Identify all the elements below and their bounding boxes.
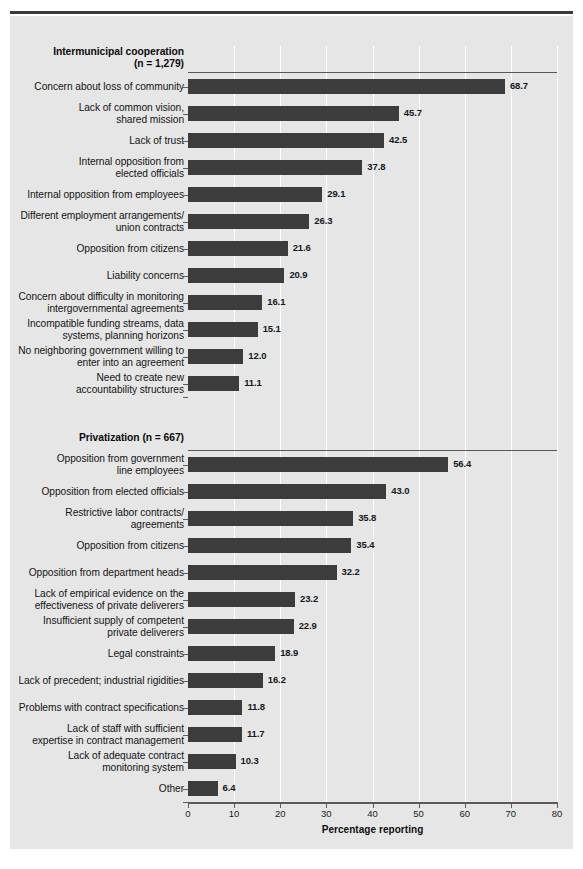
category-label-line: Concern about loss of community xyxy=(2,81,184,93)
bar-value-label: 22.9 xyxy=(299,618,317,633)
bar-value-label: 37.8 xyxy=(367,159,385,174)
category-label: Other xyxy=(2,783,184,795)
bar-value-label: 18.9 xyxy=(280,645,298,660)
bar-value-label: 6.4 xyxy=(223,780,236,795)
bar xyxy=(188,457,448,472)
category-label: Incompatible funding streams, datasystem… xyxy=(2,318,184,341)
category-label-line: No neighboring government willing to xyxy=(2,345,184,357)
group-header-line1: Privatization (n = 667) xyxy=(2,432,184,444)
category-label: Need to create newaccountability structu… xyxy=(2,372,184,395)
category-label-line: monitoring system xyxy=(2,762,184,774)
category-label-line: Lack of staff with sufficient xyxy=(2,723,184,735)
category-label-line: Insufficient supply of competent xyxy=(2,615,184,627)
category-label-line: Opposition from government xyxy=(2,453,184,465)
x-tick-label-80: 80 xyxy=(552,808,563,819)
bar-value-label: 26.3 xyxy=(314,213,332,228)
category-label: Lack of staff with sufficientexpertise i… xyxy=(2,723,184,746)
bar xyxy=(188,511,353,526)
bar xyxy=(188,241,288,256)
bar-value-label: 21.6 xyxy=(293,240,311,255)
bar-row: 20.9 xyxy=(188,262,557,289)
category-label-line: shared mission xyxy=(2,114,184,126)
bar-value-label: 20.9 xyxy=(289,267,307,282)
plot-area: 68.745.742.537.829.126.321.620.916.115.1… xyxy=(188,46,557,804)
bar-value-label: 12.0 xyxy=(248,348,266,363)
category-label-line: Lack of trust xyxy=(2,135,184,147)
category-label-line: Restrictive labor contracts/ xyxy=(2,507,184,519)
bar xyxy=(188,754,236,769)
bar-row: 12.0 xyxy=(188,343,557,370)
bar xyxy=(188,349,243,364)
category-label-line: Opposition from citizens xyxy=(2,540,184,552)
bar-value-label: 42.5 xyxy=(389,132,407,147)
group-header-privatization: Privatization (n = 667) xyxy=(2,432,184,444)
category-label-line: systems, planning horizons xyxy=(2,330,184,342)
category-label-line: private deliverers xyxy=(2,627,184,639)
category-label: Lack of common vision,shared mission xyxy=(2,102,184,125)
x-axis: 01020304050607080 xyxy=(188,804,560,824)
category-label: Different employment arrangements/union … xyxy=(2,210,184,233)
bar-value-label: 43.0 xyxy=(391,483,409,498)
x-tick-label-30: 30 xyxy=(321,808,332,819)
bar-row: 21.6 xyxy=(188,235,557,262)
bar-value-label: 45.7 xyxy=(404,105,422,120)
bar xyxy=(188,619,294,634)
bar xyxy=(188,376,239,391)
bar-row: 22.9 xyxy=(188,613,557,640)
category-label-line: Liability concerns xyxy=(2,270,184,282)
category-label-line: Incompatible funding streams, data xyxy=(2,318,184,330)
category-label: Concern about difficulty in monitoringin… xyxy=(2,291,184,314)
bar xyxy=(188,727,242,742)
category-label-line: accountability structures xyxy=(2,384,184,396)
bar xyxy=(188,160,362,175)
group-header-intermunicipal: Intermunicipal cooperation(n = 1,279) xyxy=(2,46,184,70)
bar-row: 11.8 xyxy=(188,694,557,721)
bar-row: 11.1 xyxy=(188,370,557,397)
bar-row: 32.2 xyxy=(188,559,557,586)
bar xyxy=(188,214,309,229)
category-label: Problems with contract specifications xyxy=(2,702,184,714)
bar-row: 11.7 xyxy=(188,721,557,748)
category-label: Concern about loss of community xyxy=(2,81,184,93)
x-tick-label-20: 20 xyxy=(275,808,286,819)
category-label: Liability concerns xyxy=(2,270,184,282)
bar-row: 26.3 xyxy=(188,208,557,235)
bar xyxy=(188,268,284,283)
category-label-line: Need to create new xyxy=(2,372,184,384)
bar-row: 23.2 xyxy=(188,586,557,613)
category-label: Restrictive labor contracts/agreements xyxy=(2,507,184,530)
bar xyxy=(188,133,384,148)
bar-row: 10.3 xyxy=(188,748,557,775)
category-label-line: Internal opposition from employees xyxy=(2,189,184,201)
bar xyxy=(188,322,258,337)
top-rule-divider xyxy=(10,11,573,14)
bar-row: 6.4 xyxy=(188,775,557,802)
bar-row: 56.4 xyxy=(188,451,557,478)
bar-value-label: 15.1 xyxy=(263,321,281,336)
bar-value-label: 10.3 xyxy=(241,753,259,768)
bar xyxy=(188,79,505,94)
category-label: Lack of precedent; industrial rigidities xyxy=(2,675,184,687)
category-label-line: effectiveness of private deliverers xyxy=(2,600,184,612)
x-tick-label-50: 50 xyxy=(413,808,424,819)
category-label: Opposition from citizens xyxy=(2,540,184,552)
category-label: No neighboring government willing toente… xyxy=(2,345,184,368)
category-label-line: Opposition from department heads xyxy=(2,567,184,579)
bar-row: 35.4 xyxy=(188,532,557,559)
category-label-line: Problems with contract specifications xyxy=(2,702,184,714)
bar-value-label: 32.2 xyxy=(342,564,360,579)
bar xyxy=(188,673,263,688)
category-label: Insufficient supply of competentprivate … xyxy=(2,615,184,638)
category-label: Opposition from citizens xyxy=(2,243,184,255)
bar-value-label: 68.7 xyxy=(510,78,528,93)
bar-row: 37.8 xyxy=(188,154,557,181)
category-label: Lack of adequate contractmonitoring syst… xyxy=(2,750,184,773)
bar-value-label: 29.1 xyxy=(327,186,345,201)
category-label-line: Concern about difficulty in monitoring xyxy=(2,291,184,303)
category-label-line: Lack of adequate contract xyxy=(2,750,184,762)
category-label: Opposition from elected officials xyxy=(2,486,184,498)
x-tick-label-40: 40 xyxy=(367,808,378,819)
category-label-line: Internal opposition from xyxy=(2,156,184,168)
gridline-80 xyxy=(557,46,558,804)
bar xyxy=(188,646,275,661)
